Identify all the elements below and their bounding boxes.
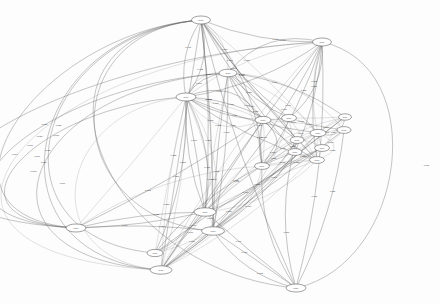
node-label: node bbox=[226, 72, 232, 74]
edge-weight-label: 0.031 bbox=[301, 89, 307, 91]
edge-weight-label: 0.081 bbox=[323, 126, 329, 128]
edge-weight-label: 0.012 bbox=[253, 110, 259, 112]
edge-weight-label: 0.008 bbox=[196, 82, 202, 84]
edge-weight-label: 0.007 bbox=[271, 176, 277, 178]
node-label: node bbox=[199, 19, 205, 21]
edge-weight-label: 0.081 bbox=[189, 240, 195, 242]
edge-weight-label: 0.025 bbox=[271, 157, 277, 159]
edge-weight-label: 0.025 bbox=[254, 183, 260, 185]
edge-weight-label: 0.015 bbox=[37, 135, 43, 137]
node-label: node bbox=[261, 119, 267, 121]
edge-weight-label: 0.008 bbox=[244, 104, 250, 106]
edge-weight-label: 0.008 bbox=[208, 119, 214, 121]
graph-canvas: 0.0450.0080.0130.0080.0110.0090.0220.028… bbox=[0, 0, 440, 304]
edge-weight-label: 0.062 bbox=[279, 39, 285, 41]
edge-weight-label: 0.008 bbox=[227, 59, 233, 61]
edge-weight-label: 0.025 bbox=[180, 161, 186, 163]
edge-weight-label: 0.017 bbox=[331, 131, 337, 133]
node-label: node bbox=[153, 252, 159, 254]
graph-node[interactable]: node bbox=[290, 137, 304, 144]
edge-weight-label: 0.013 bbox=[159, 225, 165, 227]
graph-node[interactable]: node bbox=[288, 149, 302, 156]
node-label: node bbox=[316, 132, 322, 134]
edge-weight-label: 0.028 bbox=[153, 213, 159, 215]
graph-node[interactable]: node bbox=[150, 266, 172, 274]
edge-weight-label: 0.081 bbox=[283, 231, 289, 233]
node-label: node bbox=[294, 287, 300, 289]
graph-node[interactable]: node bbox=[337, 127, 351, 134]
edge-weight-label: 0.008 bbox=[297, 132, 303, 134]
edge-weight-label: 0.013 bbox=[270, 151, 276, 153]
edge-weight-label: 0.028 bbox=[294, 161, 300, 163]
edge-weight-label: 0.038 bbox=[163, 203, 169, 205]
graph-node[interactable]: node bbox=[286, 284, 306, 292]
edge-weight-label: 0.013 bbox=[257, 272, 263, 274]
edge-weight-label: 0.013 bbox=[45, 149, 51, 151]
edge-weight-label: 0.007 bbox=[285, 104, 291, 106]
edge-weight-label: 0.011 bbox=[234, 180, 240, 182]
node-label: node bbox=[343, 116, 349, 118]
edge-weight-label: 0.025 bbox=[171, 154, 177, 156]
graph-node[interactable]: node bbox=[202, 227, 225, 235]
graph-node[interactable]: node bbox=[339, 114, 352, 120]
graph-node[interactable]: node bbox=[313, 38, 332, 46]
graph-node[interactable]: node bbox=[192, 16, 211, 24]
edge-weight-label: 0.010 bbox=[243, 191, 249, 193]
edge-weight-label: 0.013 bbox=[206, 98, 212, 100]
edge-weight-label: 0.010 bbox=[245, 205, 251, 207]
graph-node[interactable]: node bbox=[315, 145, 330, 152]
node-label: node bbox=[211, 230, 217, 232]
edge-weight-label: 0.038 bbox=[246, 91, 252, 93]
node-label: node bbox=[203, 211, 209, 213]
edge-weight-label: 0.011 bbox=[280, 161, 286, 163]
edge-weight-label: 0.019 bbox=[211, 178, 217, 180]
edge-weight-label: 0.005 bbox=[290, 145, 296, 147]
edge-weight-label: 0.062 bbox=[226, 210, 232, 212]
edge-weight-label: 0.006 bbox=[328, 141, 334, 143]
graph-node[interactable]: node bbox=[310, 157, 325, 164]
graph-node[interactable]: node bbox=[147, 249, 163, 256]
edge-weight-label: 0.025 bbox=[205, 139, 211, 141]
edge-weight-label: 0.010 bbox=[191, 139, 197, 141]
edge-weight-label: 0.012 bbox=[300, 155, 306, 157]
edge-weight-label: 0.038 bbox=[329, 149, 335, 151]
graph-node[interactable]: node bbox=[310, 129, 326, 136]
node-label: node bbox=[320, 41, 326, 43]
edge-weight-label: 0.062 bbox=[145, 189, 151, 191]
edge-weight-label: 0.031 bbox=[330, 190, 336, 192]
node-label: node bbox=[74, 227, 80, 229]
edge-weight-label: 0.011 bbox=[231, 67, 237, 69]
edge-weight-label: 0.013 bbox=[213, 170, 219, 172]
graph-node[interactable]: node bbox=[219, 69, 237, 77]
edge-weight-label: 0.009 bbox=[273, 38, 279, 40]
edge-weight-label: 0.008 bbox=[224, 131, 230, 133]
edge-weight-label: 0.012 bbox=[230, 124, 236, 126]
node-label: node bbox=[293, 151, 299, 153]
graph-node[interactable]: node bbox=[66, 224, 86, 232]
edge-weight-label: 0.017 bbox=[272, 81, 278, 83]
graph-node[interactable]: node bbox=[255, 163, 270, 170]
edge-weight-label: 0.006 bbox=[187, 231, 193, 233]
edge-weight-label: 0.008 bbox=[53, 134, 59, 136]
edge-weight-label: 0.013 bbox=[256, 124, 262, 126]
node-label: node bbox=[320, 147, 326, 149]
node-label: node bbox=[342, 129, 348, 131]
edge-weight-label: 0.038 bbox=[56, 124, 62, 126]
graph-node[interactable]: node bbox=[176, 93, 196, 101]
graph-node[interactable]: node bbox=[194, 208, 216, 216]
edge-weight-label: 0.010 bbox=[298, 120, 304, 122]
edge-weight-label: 0.022 bbox=[197, 68, 203, 70]
graph-svg: 0.0450.0080.0130.0080.0110.0090.0220.028… bbox=[0, 0, 440, 304]
edge-weight-label: 0.009 bbox=[122, 224, 128, 226]
edge-weight-label: 0.010 bbox=[205, 73, 211, 75]
edge-weight-label: 0.015 bbox=[222, 48, 228, 50]
graph-node[interactable]: node bbox=[282, 114, 297, 121]
edge-weight-label: 0.045 bbox=[185, 46, 191, 48]
edge-weight-label: 0.022 bbox=[311, 80, 317, 82]
edge-weight-label: 0.025 bbox=[257, 136, 263, 138]
edge-weight-label: 0.045 bbox=[280, 147, 286, 149]
edge-weight-label: 0.081 bbox=[281, 108, 287, 110]
node-label: node bbox=[184, 96, 190, 98]
graph-node[interactable]: node bbox=[255, 116, 271, 123]
edge-weight-label: 0.009 bbox=[236, 240, 242, 242]
